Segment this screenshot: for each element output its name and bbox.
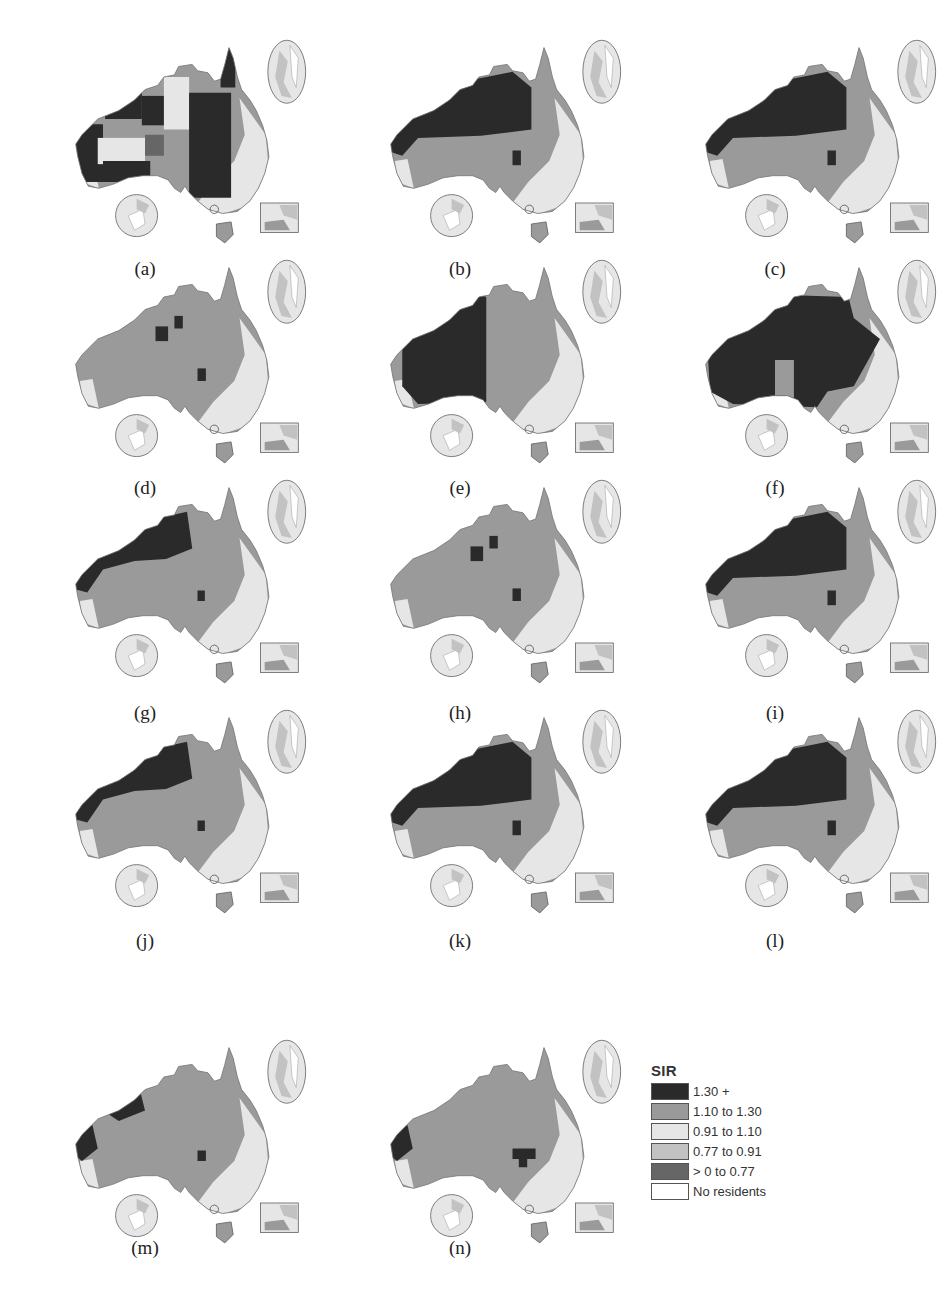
map-panel — [30, 25, 330, 265]
map-panel — [30, 1025, 330, 1265]
panel-label: (j) — [115, 930, 175, 952]
map-panel — [660, 465, 944, 705]
panel-label: (m) — [115, 1237, 175, 1259]
map-panel — [660, 695, 944, 935]
map-panel — [30, 465, 330, 705]
panel-label: (n) — [430, 1237, 490, 1259]
map-panel — [345, 465, 645, 705]
legend-swatch — [651, 1123, 689, 1140]
legend-label: 1.30 + — [693, 1084, 730, 1099]
legend-label: 0.77 to 0.91 — [693, 1144, 762, 1159]
legend-swatch — [651, 1103, 689, 1120]
legend-item: > 0 to 0.77 — [651, 1161, 821, 1181]
legend-swatch — [651, 1163, 689, 1180]
legend-label: > 0 to 0.77 — [693, 1164, 755, 1179]
map-panel — [345, 25, 645, 265]
map-panel — [345, 245, 645, 485]
legend-item: 1.10 to 1.30 — [651, 1101, 821, 1121]
panel-label: (l) — [745, 930, 805, 952]
map-panel — [345, 695, 645, 935]
map-panel — [345, 1025, 645, 1265]
legend-title: SIR — [651, 1062, 821, 1079]
legend-item: 0.77 to 0.91 — [651, 1141, 821, 1161]
map-panel — [660, 245, 944, 485]
legend-item: No residents — [651, 1181, 821, 1201]
legend-label: No residents — [693, 1184, 766, 1199]
map-panel — [30, 695, 330, 935]
map-panel — [660, 25, 944, 265]
legend: SIR 1.30 +1.10 to 1.300.91 to 1.100.77 t… — [651, 1062, 821, 1201]
legend-label: 1.10 to 1.30 — [693, 1104, 762, 1119]
legend-swatch — [651, 1083, 689, 1100]
legend-label: 0.91 to 1.10 — [693, 1124, 762, 1139]
legend-swatch — [651, 1183, 689, 1200]
legend-item: 1.30 + — [651, 1081, 821, 1101]
panel-label: (k) — [430, 930, 490, 952]
map-panel — [30, 245, 330, 485]
legend-item: 0.91 to 1.10 — [651, 1121, 821, 1141]
legend-swatch — [651, 1143, 689, 1160]
